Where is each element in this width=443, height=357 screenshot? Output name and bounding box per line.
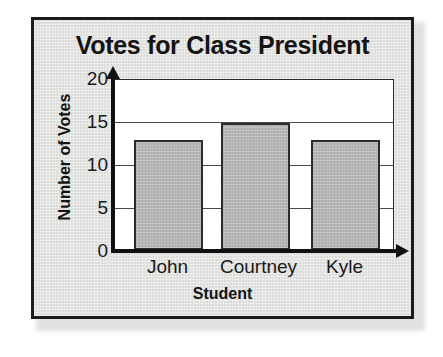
y-tick-label-5: 5 [74, 198, 108, 217]
category-label-courtney: Courtney [220, 256, 289, 278]
y-tick-label-0: 0 [74, 241, 108, 260]
bar-fill-texture [136, 142, 201, 249]
y-axis-line [111, 78, 115, 253]
plot-area [113, 79, 394, 251]
bar-fill-texture [313, 142, 378, 249]
x-axis-arrow-icon [396, 244, 409, 258]
chart-figure-frame: Votes for Class President Number of Vote… [31, 17, 414, 319]
category-label-kyle: Kyle [310, 256, 379, 278]
bar-john [134, 140, 203, 251]
x-axis-category-labels: John Courtney Kyle [113, 256, 394, 282]
x-axis-line [111, 249, 401, 253]
y-tick-label-15: 15 [74, 112, 108, 131]
bar-kyle [311, 140, 380, 251]
y-tick-label-10: 10 [74, 155, 108, 174]
category-label-john: John [133, 256, 202, 278]
y-tick-label-20: 20 [74, 69, 108, 88]
x-axis-title: Student [34, 285, 411, 303]
bar-courtney [221, 123, 290, 251]
y-axis-arrow-icon [106, 66, 120, 79]
bar-fill-texture [223, 125, 288, 249]
y-axis-tick-labels: 20 15 10 5 0 [68, 20, 108, 322]
